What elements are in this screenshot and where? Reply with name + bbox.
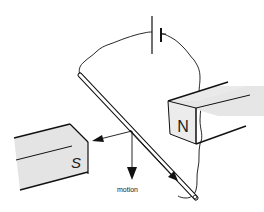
battery-icon xyxy=(152,16,166,54)
diagram-canvas: N S xyxy=(0,0,264,212)
south-magnet: S xyxy=(14,124,88,190)
motion-arrow-icon xyxy=(127,131,137,180)
motion-label: motion xyxy=(117,186,138,193)
current-arrow-icon xyxy=(130,130,178,181)
force-arrow-icon xyxy=(92,131,132,142)
south-pole-label: S xyxy=(71,154,81,171)
north-magnet: N xyxy=(168,82,264,144)
north-pole-label: N xyxy=(177,118,189,135)
